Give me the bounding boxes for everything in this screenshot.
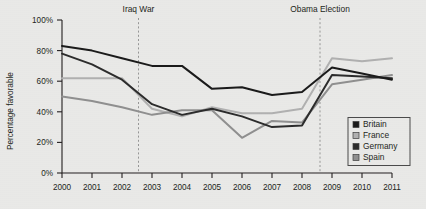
legend-swatch-france <box>353 133 359 139</box>
legend-label-britain: Britain <box>363 119 387 129</box>
legend-label-germany: Germany <box>363 141 398 151</box>
y-tick-label: 20% <box>37 138 53 147</box>
x-tick-label: 2002 <box>113 183 132 192</box>
x-tick-label: 2008 <box>293 183 312 192</box>
y-tick-label: 40% <box>37 108 53 117</box>
annotation-label: Obama Election <box>290 4 350 14</box>
x-tick-label: 2000 <box>53 183 72 192</box>
legend-swatch-germany <box>353 144 359 150</box>
y-tick-label: 80% <box>37 47 53 56</box>
line-chart-svg: Iraq WarObama Election 0%20%40%60%80%100… <box>0 0 426 209</box>
x-tick-label: 2006 <box>233 183 252 192</box>
x-tick-label: 2003 <box>143 183 162 192</box>
x-tick-label: 2009 <box>323 183 342 192</box>
y-tick-label: 60% <box>37 77 53 86</box>
x-tick-label: 2004 <box>173 183 192 192</box>
chart-figure: Iraq WarObama Election 0%20%40%60%80%100… <box>0 0 426 209</box>
y-tick-label: 0% <box>41 169 53 178</box>
legend-swatch-spain <box>353 155 359 161</box>
x-tick-label: 2007 <box>263 183 282 192</box>
x-tick-label: 2010 <box>353 183 372 192</box>
legend-label-spain: Spain <box>363 152 385 162</box>
chart-legend: BritainFranceGermanySpain <box>348 118 410 166</box>
y-axis-label: Percentage favorable <box>6 72 15 150</box>
x-tick-label: 2005 <box>203 183 222 192</box>
legend-swatch-britain <box>353 122 359 128</box>
x-tick-label: 2011 <box>383 183 401 192</box>
y-tick-label: 100% <box>32 16 53 25</box>
annotation-label: Iraq War <box>123 4 155 14</box>
x-tick-label: 2001 <box>83 183 102 192</box>
legend-label-france: France <box>363 130 389 140</box>
